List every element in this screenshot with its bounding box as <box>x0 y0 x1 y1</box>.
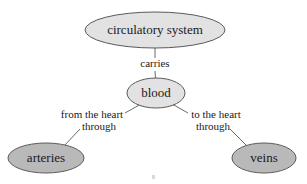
circulatory-system-diagram: circulatory system blood arteries veins … <box>0 0 307 184</box>
edge-line-blood-to-veins-upper <box>172 104 188 113</box>
edge-label-from-the-heart-line1: from the heart <box>61 108 123 120</box>
edge-line-blood-to-veins-lower <box>230 129 247 146</box>
edge-label-carries: carries <box>140 57 169 69</box>
edge-label-to-the-heart-line1: to the heart <box>191 108 240 120</box>
node-label-arteries: arteries <box>27 150 65 165</box>
node-label-veins: veins <box>250 150 277 165</box>
edge-label-from-the-heart-line2: through <box>82 120 117 132</box>
edge-label-to-the-heart-line2: through <box>196 120 231 132</box>
node-label-circulatory-system: circulatory system <box>107 22 203 37</box>
scan-artifact-speck <box>152 175 155 179</box>
edge-line-blood-to-arteries-lower <box>64 129 80 146</box>
node-label-blood: blood <box>141 85 171 100</box>
concept-map-canvas: circulatory system blood arteries veins … <box>0 0 307 184</box>
